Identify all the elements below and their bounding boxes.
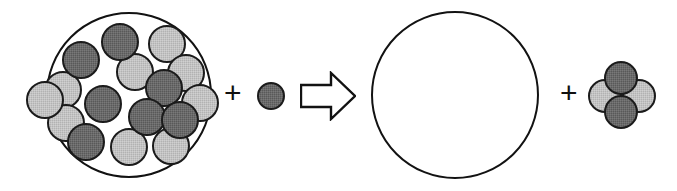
product-nucleus-shell — [371, 11, 539, 179]
dark-nucleon — [161, 101, 199, 139]
reaction-diagram: + + — [0, 0, 677, 191]
plus-operator-right: + — [560, 78, 578, 108]
incoming-nucleon — [257, 82, 285, 110]
light-nucleon — [26, 81, 64, 119]
dark-nucleon — [62, 41, 100, 79]
dark-nucleon — [604, 95, 638, 129]
dark-nucleon — [101, 23, 139, 61]
dark-nucleon — [604, 61, 638, 95]
dark-nucleon — [84, 85, 122, 123]
dark-nucleon — [67, 123, 105, 161]
plus-operator-left: + — [224, 78, 242, 108]
reaction-arrow-icon — [300, 71, 356, 121]
